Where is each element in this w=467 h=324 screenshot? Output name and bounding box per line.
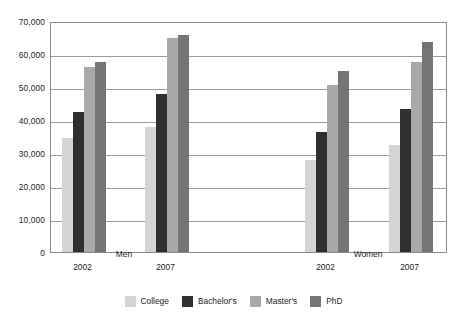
legend-swatch [182, 296, 193, 307]
legend-label: College [141, 296, 169, 307]
x-axis-year-label: 2007 [156, 262, 175, 272]
legend-label: Master's [266, 296, 297, 307]
legend-item[interactable]: Master's [250, 296, 297, 307]
x-axis-year-label: 2002 [316, 262, 335, 272]
legend-swatch [310, 296, 321, 307]
legend-label: PhD [326, 296, 342, 307]
x-axis-year-label: 2002 [73, 262, 92, 272]
legend-label: Bachelor's [198, 296, 237, 307]
chart-legend: CollegeBachelor'sMaster'sPhD [0, 293, 467, 309]
x-axis-year-label: 2007 [400, 262, 419, 272]
legend-swatch [125, 296, 136, 307]
x-axis-group-label: Women [354, 249, 383, 259]
x-axis-group-label: Men [116, 249, 132, 259]
legend-item[interactable]: Bachelor's [182, 296, 237, 307]
bar-chart: 010,00020,00030,00040,00050,00060,00070,… [0, 0, 467, 324]
legend-item[interactable]: PhD [310, 296, 342, 307]
x-axis: 2002200720022007MenWomen [0, 0, 467, 324]
legend-swatch [250, 296, 261, 307]
legend-item[interactable]: College [125, 296, 169, 307]
